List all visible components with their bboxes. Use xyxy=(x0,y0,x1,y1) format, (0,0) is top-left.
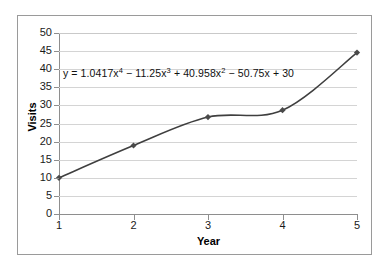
data-point-year-2 xyxy=(130,142,136,148)
x-tick-2 xyxy=(134,215,135,220)
x-tick-1 xyxy=(59,215,60,220)
y-tick-label-15: 15 xyxy=(22,154,52,165)
series-line-visits xyxy=(59,33,357,214)
y-tick-35 xyxy=(54,87,59,88)
chart-figure: 05101520253035404550 12345 Visits Year y… xyxy=(17,15,372,255)
y-tick-label-45: 45 xyxy=(22,45,52,56)
x-tick-5 xyxy=(357,215,358,220)
equation-mid-1: − 11.25x xyxy=(123,67,167,79)
x-tick-4 xyxy=(283,215,284,220)
y-tick-5 xyxy=(54,196,59,197)
equation-mid-2: + 40.958x xyxy=(171,67,221,79)
x-tick-label-5: 5 xyxy=(345,219,369,231)
y-tick-15 xyxy=(54,160,59,161)
x-axis-title: Year xyxy=(59,235,358,247)
equation-lead: y = 1.0417x xyxy=(63,67,119,79)
y-tick-label-40: 40 xyxy=(22,63,52,74)
y-tick-20 xyxy=(54,142,59,143)
y-tick-25 xyxy=(54,124,59,125)
y-tick-40 xyxy=(54,69,59,70)
trendline-equation-label: y = 1.0417x4 − 11.25x3 + 40.958x2 − 50.7… xyxy=(63,67,294,79)
x-tick-label-3: 3 xyxy=(196,219,220,231)
x-tick-3 xyxy=(208,215,209,220)
y-tick-label-5: 5 xyxy=(22,190,52,201)
y-tick-label-50: 50 xyxy=(22,27,52,38)
x-tick-label-4: 4 xyxy=(271,219,295,231)
y-tick-45 xyxy=(54,51,59,52)
y-tick-50 xyxy=(54,33,59,34)
y-tick-30 xyxy=(54,105,59,106)
y-tick-label-0: 0 xyxy=(22,208,52,219)
y-axis-title: Visits xyxy=(26,87,38,147)
x-tick-label-1: 1 xyxy=(47,219,71,231)
plot-area xyxy=(59,33,357,214)
y-tick-label-10: 10 xyxy=(22,172,52,183)
x-tick-label-2: 2 xyxy=(122,219,146,231)
data-point-year-3 xyxy=(205,114,211,120)
equation-tail: − 50.75x + 30 xyxy=(226,67,295,79)
data-point-year-4 xyxy=(279,107,285,113)
y-tick-10 xyxy=(54,178,59,179)
